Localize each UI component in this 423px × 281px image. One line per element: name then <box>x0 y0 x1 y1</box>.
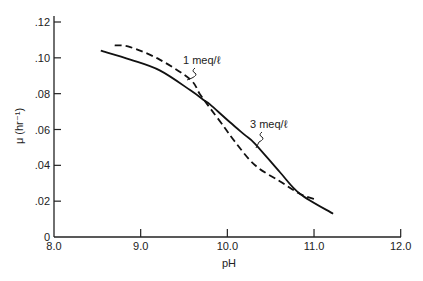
plot-area: 0.02.04.06.08.10.12 8.09.010.011.012.0 p… <box>13 16 411 269</box>
series-line-3-meq <box>101 51 333 214</box>
x-tick-label: 9.0 <box>133 240 148 252</box>
y-tick-label: .12 <box>35 16 50 28</box>
x-tick-label: 11.0 <box>304 240 325 252</box>
y-tick-label: .10 <box>35 52 50 64</box>
y-tick-label: .08 <box>35 88 50 100</box>
y-tick-label: .02 <box>35 195 50 207</box>
annotation-leader-3-meq <box>256 132 263 148</box>
y-tick-label: .06 <box>35 124 50 136</box>
x-tick-label: 10.0 <box>217 240 238 252</box>
y-tick-label: .04 <box>35 159 50 171</box>
chart: 0.02.04.06.08.10.12 8.09.010.011.012.0 p… <box>0 0 423 281</box>
x-axis-title: pH <box>222 257 236 269</box>
annotation-label-3-meq: 3 meq/ℓ <box>250 118 288 130</box>
y-axis-ticks: 0.02.04.06.08.10.12 <box>35 16 61 243</box>
annotation-1-meq: 1 meq/ℓ <box>183 54 221 80</box>
x-axis-ticks: 8.09.010.011.012.0 <box>46 229 411 252</box>
y-axis-title: μ (hr⁻¹) <box>13 108 25 144</box>
x-tick-label: 8.0 <box>46 240 61 252</box>
annotation-label-1-meq: 1 meq/ℓ <box>183 54 221 66</box>
x-tick-label: 12.0 <box>390 240 411 252</box>
